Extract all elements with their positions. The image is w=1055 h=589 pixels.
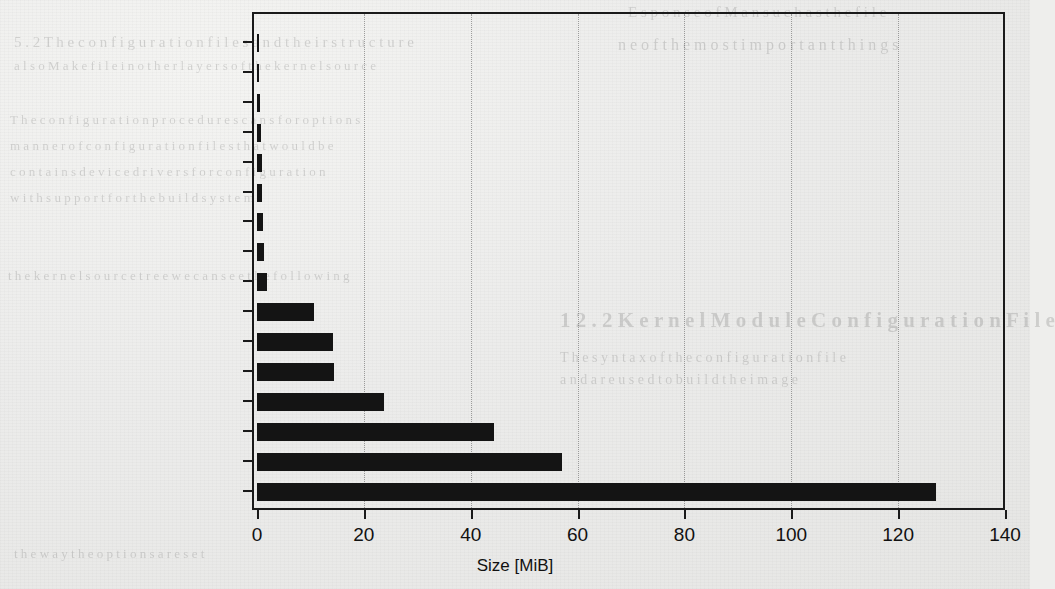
bar-device-drivers: [257, 483, 936, 501]
value-tick-label-140: 140: [989, 524, 1021, 546]
category-tick: [243, 41, 252, 43]
category-tick: [243, 310, 252, 312]
category-tick: [243, 161, 252, 163]
bar-sound-drivers: [257, 333, 333, 351]
value-tick-label-60: 60: [567, 524, 588, 546]
bar-scripts: [257, 243, 264, 261]
bar-library-functions: [257, 154, 262, 172]
value-tick-0: [257, 510, 259, 519]
value-tick-label-20: 20: [353, 524, 374, 546]
category-tick: [243, 490, 252, 492]
gridline-80: [684, 14, 686, 508]
category-tick: [243, 280, 252, 282]
category-tick: [243, 191, 252, 193]
value-tick-140: [1005, 510, 1007, 519]
value-tick-label-120: 120: [882, 524, 914, 546]
bar-cryptographic-routines: [257, 184, 262, 202]
value-tick-80: [684, 510, 686, 519]
category-tick: [243, 400, 252, 402]
category-tick: [243, 340, 252, 342]
category-tick: [243, 131, 252, 133]
bar-documentation: [257, 303, 314, 321]
bar-core-kernel: [257, 273, 267, 291]
category-tick: [243, 220, 252, 222]
category-tick: [243, 250, 252, 252]
value-tick-label-100: 100: [775, 524, 807, 546]
bar-filesystems: [257, 393, 384, 411]
x-axis-title: Size [MiB]: [0, 556, 1030, 576]
bar-memory-management: [257, 213, 263, 231]
gridline-60: [578, 14, 580, 508]
bar-architecture-specific-code: [257, 453, 562, 471]
value-tick-20: [364, 510, 366, 519]
gridline-100: [791, 14, 793, 508]
value-tick-label-40: 40: [460, 524, 481, 546]
category-tick: [243, 101, 252, 103]
plot-area: [252, 12, 1005, 510]
bar-header-files: [257, 423, 494, 441]
bar-security-framework: [257, 124, 261, 142]
value-tick-120: [898, 510, 900, 519]
category-tick: [243, 71, 252, 73]
value-tick-label-80: 80: [674, 524, 695, 546]
bar-block-layer: [257, 94, 260, 112]
value-tick-100: [791, 510, 793, 519]
bar-initialization: [257, 34, 259, 52]
bar-networking: [257, 363, 334, 381]
category-tick: [243, 460, 252, 462]
category-tick: [243, 370, 252, 372]
value-tick-label-0: 0: [252, 524, 263, 546]
category-axis-labels: InitializationIPCBlock LayerSecurity Fra…: [0, 0, 246, 589]
category-tick: [243, 430, 252, 432]
bar-ipc: [257, 64, 259, 82]
value-tick-60: [578, 510, 580, 519]
value-tick-40: [471, 510, 473, 519]
gridline-120: [898, 14, 900, 508]
